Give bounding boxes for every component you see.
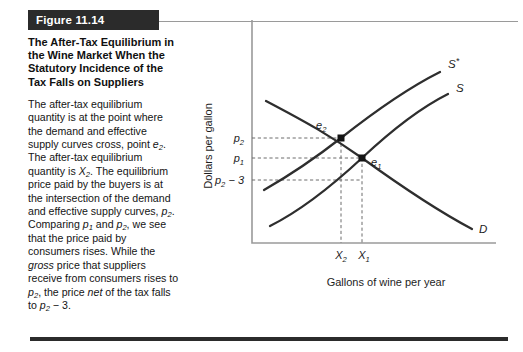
axis-frame — [252, 20, 496, 243]
x-tick-label-x2: X2 — [334, 249, 347, 264]
figure-number-label: Figure 11.14 — [28, 14, 104, 26]
y-tick-label-p1: p1 — [233, 152, 244, 167]
figure-caption-body: The after-tax equilibrium quantity is at… — [28, 98, 180, 313]
caption-column: The After-Tax Equilibrium in the Wine Ma… — [28, 36, 180, 312]
y-tick-label-p2-minus-3: p2 − 3 — [214, 174, 245, 189]
y-tick-label-p2: p2 — [233, 132, 245, 147]
effective-supply-curve — [264, 72, 440, 190]
equilibrium-point-e1 — [359, 155, 366, 162]
equilibrium-label-e1: e1 — [371, 156, 381, 171]
demand-curve-label: D — [479, 223, 487, 235]
supply-demand-chart: Dollars per gallon Gallons of wine per y… — [196, 14, 518, 306]
figure-container: Figure 11.14 The After-Tax Equilibrium i… — [0, 0, 523, 352]
figure-title: The After-Tax Equilibrium in the Wine Ma… — [28, 36, 180, 89]
chart-svg: Dollars per gallon Gallons of wine per y… — [196, 14, 518, 306]
effective-supply-curve-label: S* — [448, 56, 460, 70]
supply-curve-label: S — [456, 82, 464, 94]
y-axis-label: Dollars per gallon — [202, 103, 214, 189]
equilibrium-label-e2: e2 — [316, 119, 327, 134]
figure-number-bar: Figure 11.14 — [28, 10, 159, 30]
x-axis-label: Gallons of wine per year — [327, 276, 446, 288]
bottom-divider — [30, 337, 508, 341]
x-tick-label-x1: X1 — [357, 249, 370, 264]
equilibrium-point-e2 — [338, 135, 345, 142]
